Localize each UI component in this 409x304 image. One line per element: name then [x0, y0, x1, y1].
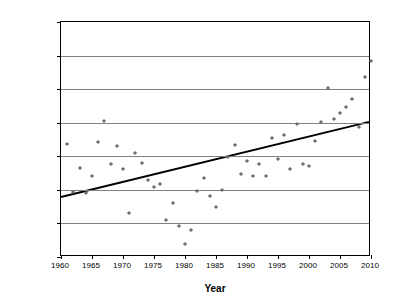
y-axis-tick — [57, 223, 61, 224]
y-axis-tick — [57, 156, 61, 157]
x-axis-tick-label: 2010 — [350, 262, 390, 270]
x-axis-tick — [340, 255, 341, 259]
x-axis-tick — [61, 255, 62, 259]
plot-area — [60, 21, 370, 256]
gridline — [61, 223, 369, 224]
x-axis-tick — [371, 255, 372, 259]
gridline — [61, 123, 369, 124]
x-axis-tick — [154, 255, 155, 259]
chart-figure: Mean Minimum Temperature (°C) Year 19.52… — [0, 0, 409, 304]
gridline — [61, 56, 369, 57]
x-axis-tick — [247, 255, 248, 259]
y-axis-tick — [57, 190, 61, 191]
y-axis-tick — [57, 123, 61, 124]
gridline — [61, 156, 369, 157]
x-axis-tick — [92, 255, 93, 259]
y-axis-tick — [57, 22, 61, 23]
data-point — [369, 59, 373, 63]
x-axis-tick — [309, 255, 310, 259]
y-axis-tick — [57, 89, 61, 90]
x-axis-tick — [278, 255, 279, 259]
x-axis-tick — [185, 255, 186, 259]
x-axis-tick — [216, 255, 217, 259]
x-axis-tick — [123, 255, 124, 259]
x-axis-title: Year — [60, 283, 370, 294]
gridline — [61, 190, 369, 191]
gridline — [61, 89, 369, 90]
trendline — [61, 22, 369, 255]
y-axis-tick — [57, 56, 61, 57]
